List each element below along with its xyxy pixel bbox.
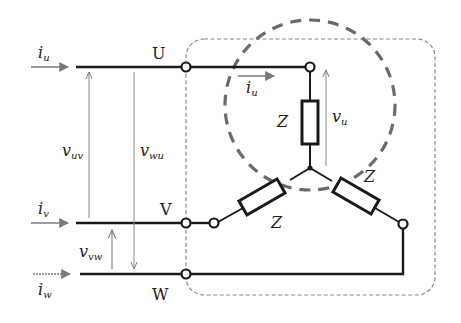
impedance-label-w: Z <box>363 167 376 186</box>
terminal-w-inner <box>399 220 408 229</box>
terminal-v-outer <box>182 219 191 228</box>
line-label-w: W <box>152 285 169 304</box>
line-label-v: V <box>159 200 172 219</box>
terminal-v-inner <box>210 219 219 228</box>
impedance-u <box>302 101 318 144</box>
voltage-label-vu: vu <box>332 107 348 127</box>
impedance-v <box>239 179 285 215</box>
y-connection-diagram: U V W iu iv iw iu vuv vwu vvw vu Z Z Z <box>0 0 461 323</box>
line-label-u: U <box>152 44 165 63</box>
current-label-iv: iv <box>38 199 49 219</box>
impedance-label-u: Z <box>276 112 289 131</box>
branch-u <box>302 71 318 168</box>
voltage-label-vwu: vwu <box>140 141 164 161</box>
current-label-iu: iu <box>38 43 50 63</box>
impedance-label-v: Z <box>270 213 283 232</box>
terminal-w-outer <box>182 270 191 279</box>
current-label-iu-load: iu <box>246 78 258 98</box>
branch-v <box>218 168 310 222</box>
terminal-u-outer <box>182 63 191 72</box>
terminal-u-inner <box>306 63 315 72</box>
voltage-label-vuv: vuv <box>62 141 83 161</box>
voltage-label-vvw: vvw <box>79 242 103 262</box>
line-w <box>80 228 403 274</box>
current-label-iw: iw <box>38 280 52 300</box>
neutral-node <box>308 166 313 171</box>
